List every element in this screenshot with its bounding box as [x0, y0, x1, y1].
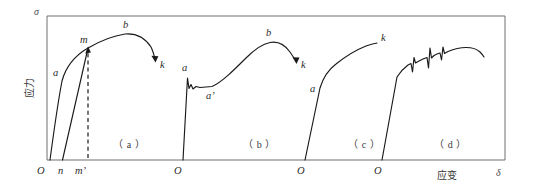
label-a-point-m: m	[80, 34, 88, 45]
label-a-origin: O	[37, 165, 45, 176]
label-b-point-b: b	[266, 27, 271, 38]
panel-a-labels: a m b k O n m’ （ a ）	[37, 19, 165, 176]
label-b-point-a: a	[182, 62, 187, 73]
y-axis-symbol-sigma: σ	[34, 6, 40, 17]
panel-a-unload-arrowhead	[85, 47, 91, 54]
panel-b-curves	[183, 42, 300, 160]
y-axis-name-stress: 应力	[23, 78, 35, 98]
panel-a-unloading-line	[63, 48, 89, 160]
panel-d-curves	[382, 47, 484, 160]
panel-b-labels: a a’ b k O （ b ）	[174, 27, 306, 176]
label-a-point-k: k	[160, 59, 165, 70]
panel-caption-c: （ c ）	[348, 139, 380, 150]
label-c-origin: O	[297, 165, 305, 176]
panel-caption-b: （ b ）	[243, 139, 276, 150]
axis-annotations: σ δ 应变 应力	[23, 6, 501, 181]
panel-c-labels: a k O （ c ）	[297, 32, 386, 176]
panel-b-loading-curve	[183, 42, 296, 160]
panel-b-k-arrowhead	[293, 57, 300, 64]
label-a-tick-mprime: m’	[75, 165, 87, 176]
label-a-point-a: a	[53, 67, 58, 78]
panel-a-k-arrowhead	[151, 56, 158, 63]
label-a-tick-n: n	[58, 165, 63, 176]
label-b-point-k: k	[301, 59, 306, 70]
panel-caption-a: （ a ）	[113, 139, 145, 150]
label-b-point-aprime: a’	[206, 90, 215, 101]
label-c-point-a: a	[310, 83, 315, 94]
panel-caption-d: （ d ）	[434, 139, 467, 150]
x-axis-name-strain: 应变	[437, 169, 457, 181]
x-axis-symbol-delta: δ	[496, 167, 501, 178]
label-d-origin: O	[374, 165, 382, 176]
stress-strain-figure: a m b k O n m’ （ a ） a a’ b k O （ b ） a	[0, 0, 535, 194]
figure-canvas: a m b k O n m’ （ a ） a a’ b k O （ b ） a	[0, 0, 535, 194]
label-c-point-k: k	[381, 32, 386, 43]
label-b-origin: O	[174, 165, 182, 176]
panel-d-loading-curve-serrated	[382, 47, 484, 160]
label-a-point-b: b	[123, 19, 128, 30]
